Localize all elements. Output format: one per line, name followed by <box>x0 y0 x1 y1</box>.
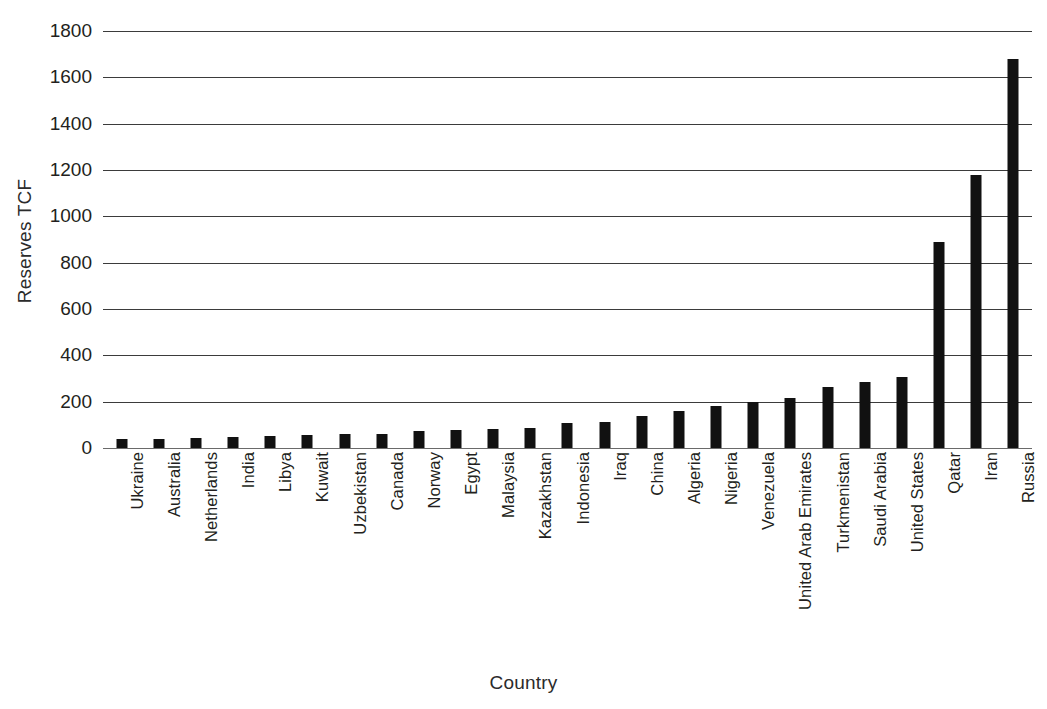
bar[interactable] <box>525 428 536 448</box>
x-axis-tick-label: United Arab Emirates <box>797 452 814 610</box>
bar[interactable] <box>153 439 164 448</box>
bar[interactable] <box>339 434 350 448</box>
bar[interactable] <box>376 434 387 448</box>
x-axis-tick-label: Libya <box>277 452 294 492</box>
x-axis-tick-label-text: Venezuela <box>760 452 777 530</box>
bar[interactable] <box>599 422 610 448</box>
x-axis-tick-label: Canada <box>389 452 406 510</box>
x-axis-tick-label-text: Russia <box>1020 452 1037 503</box>
bar[interactable] <box>190 438 201 448</box>
bar-slot <box>735 31 772 448</box>
bar-slot <box>921 31 958 448</box>
x-axis-tick-label: Australia <box>166 452 183 517</box>
x-axis-tick-label-text: Ukraine <box>129 452 146 510</box>
bar-slot <box>809 31 846 448</box>
bar[interactable] <box>1008 59 1019 448</box>
bar-slot <box>772 31 809 448</box>
x-axis-tick-labels: UkraineAustraliaNetherlandsIndiaLibyaKuw… <box>103 452 1032 652</box>
x-axis-tick-label-text: Iraq <box>612 452 629 481</box>
x-axis-tick-label: Qatar <box>946 452 963 494</box>
bar[interactable] <box>934 242 945 448</box>
x-axis-tick-label: Uzbekistan <box>352 452 369 535</box>
bar-slot <box>252 31 289 448</box>
x-axis-tick-label: Russia <box>1020 452 1037 503</box>
bar[interactable] <box>228 437 239 448</box>
bar[interactable] <box>748 402 759 448</box>
x-axis-tick-label: Kuwait <box>314 452 331 502</box>
bar-slot <box>698 31 735 448</box>
bar-slot <box>214 31 251 448</box>
x-axis-tick-label: Malaysia <box>500 452 517 518</box>
x-axis-tick-label: Ukraine <box>129 452 146 510</box>
x-axis-tick-label-text: India <box>240 452 257 488</box>
gas-reserves-bar-chart: Reserves TCF 020040060080010001200140016… <box>0 0 1047 709</box>
bar[interactable] <box>562 423 573 448</box>
bars <box>103 31 1032 448</box>
x-axis-tick-label-text: United States <box>909 452 926 552</box>
x-axis-tick-label: Turkmenistan <box>835 452 852 553</box>
bar[interactable] <box>636 416 647 448</box>
bar[interactable] <box>971 175 982 448</box>
bar-slot <box>400 31 437 448</box>
x-axis-tick-label-text: Algeria <box>686 452 703 504</box>
x-axis-tick-label: United States <box>909 452 926 552</box>
x-axis-tick-label: Kazakhstan <box>537 452 554 539</box>
bar[interactable] <box>265 436 276 448</box>
x-axis-tick-label: India <box>240 452 257 488</box>
bar-slot <box>958 31 995 448</box>
bar-slot <box>883 31 920 448</box>
bar-slot <box>475 31 512 448</box>
x-axis-tick-label-text: Norway <box>426 452 443 509</box>
bar[interactable] <box>673 411 684 448</box>
bar[interactable] <box>859 382 870 448</box>
bar[interactable] <box>413 431 424 448</box>
bar-slot <box>623 31 660 448</box>
bar-slot <box>289 31 326 448</box>
x-axis-tick-label: Egypt <box>463 452 480 495</box>
x-axis-tick-label-text: Malaysia <box>500 452 517 518</box>
bar[interactable] <box>302 435 313 448</box>
x-axis-tick-label: China <box>649 452 666 496</box>
x-axis-tick-label-text: Uzbekistan <box>352 452 369 535</box>
x-axis-tick-label-text: Nigeria <box>723 452 740 505</box>
y-axis-tick-label: 1600 <box>30 67 92 86</box>
x-axis-tick-label-text: China <box>649 452 666 496</box>
bar-slot <box>363 31 400 448</box>
bar-slot <box>326 31 363 448</box>
x-axis-tick-label: Venezuela <box>760 452 777 530</box>
y-axis-tick-label: 400 <box>30 345 92 364</box>
bar[interactable] <box>488 429 499 448</box>
x-axis-tick-label: Indonesia <box>575 452 592 524</box>
x-axis-tick-label-text: Saudi Arabia <box>872 452 889 547</box>
bar-slot <box>103 31 140 448</box>
x-axis-tick-label-text: Netherlands <box>203 452 220 542</box>
y-axis-tick-label: 1800 <box>30 21 92 40</box>
x-axis-tick-label: Norway <box>426 452 443 509</box>
y-axis-tick-label: 1200 <box>30 160 92 179</box>
y-axis-tick-label: 200 <box>30 392 92 411</box>
x-axis-tick-label-text: Indonesia <box>575 452 592 524</box>
y-axis-tick-label: 1400 <box>30 114 92 133</box>
bar[interactable] <box>822 387 833 448</box>
x-axis-tick-label-text: Egypt <box>463 452 480 495</box>
x-axis-tick-label-text: Iran <box>983 452 1000 481</box>
bar[interactable] <box>785 398 796 448</box>
x-axis-tick-label: Iraq <box>612 452 629 481</box>
x-axis-tick-label-text: Canada <box>389 452 406 510</box>
bar[interactable] <box>451 430 462 448</box>
bar-slot <box>995 31 1032 448</box>
x-axis-tick-label-text: Qatar <box>946 452 963 494</box>
x-axis-tick-label-text: Turkmenistan <box>835 452 852 553</box>
x-axis-tick-label-text: United Arab Emirates <box>797 452 814 610</box>
x-axis-tick-label-text: Australia <box>166 452 183 517</box>
bar[interactable] <box>116 439 127 448</box>
bar[interactable] <box>896 377 907 448</box>
x-axis-tick-label: Iran <box>983 452 1000 481</box>
gridline <box>103 448 1032 449</box>
x-axis-tick-label-text: Kuwait <box>314 452 331 502</box>
y-axis-tick-label: 600 <box>30 299 92 318</box>
bar[interactable] <box>711 406 722 448</box>
x-axis-tick-label: Algeria <box>686 452 703 504</box>
x-axis-tick-label-text: Libya <box>277 452 294 492</box>
y-axis-tick-label: 0 <box>30 438 92 457</box>
